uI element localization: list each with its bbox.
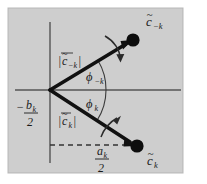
bottom-axis-denominator: 2 bbox=[98, 161, 104, 175]
left-axis-numerator-base: b bbox=[26, 98, 32, 112]
upper-angle-subscript: −k bbox=[95, 77, 104, 86]
lower-magnitude-left-bar: | bbox=[58, 115, 61, 128]
left-axis-denominator: 2 bbox=[27, 115, 33, 129]
upper-magnitude-left-bar: | bbox=[58, 55, 61, 68]
lower-phasor-tip-dot bbox=[130, 139, 143, 152]
left-axis-minus-sign: − bbox=[16, 100, 24, 114]
lower-angle-symbol: ϕ bbox=[86, 97, 93, 111]
lower-magnitude-tilde: ~ bbox=[62, 108, 68, 119]
upper-magnitude-subscript: −k bbox=[68, 61, 77, 70]
upper-magnitude-tilde: ~ bbox=[62, 48, 68, 59]
upper-phasor-tip-dot bbox=[126, 33, 139, 46]
lower-angle-subscript: k bbox=[95, 104, 99, 113]
upper-tip-label-tilde: ~ bbox=[147, 8, 153, 20]
lower-magnitude-subscript: k bbox=[69, 121, 73, 130]
lower-tip-label-tilde: ~ bbox=[148, 147, 154, 159]
diagram-canvas: c ~ −k c ~ k | c ~ −k | | c ~ k | bbox=[0, 0, 207, 184]
upper-tip-label-subscript: −k bbox=[153, 21, 163, 31]
upper-magnitude-right-bar: | bbox=[78, 55, 81, 68]
lower-tip-label-subscript: k bbox=[154, 160, 158, 170]
lower-magnitude-right-bar: | bbox=[73, 115, 76, 128]
phasor-diagram-figure: c ~ −k c ~ k | c ~ −k | | c ~ k | bbox=[0, 0, 207, 184]
upper-angle-symbol: ϕ bbox=[86, 70, 93, 84]
bottom-axis-numerator-base: a bbox=[97, 144, 103, 158]
